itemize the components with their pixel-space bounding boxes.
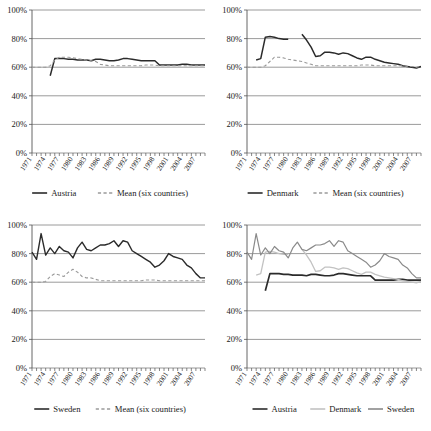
chart-svg: 0%20%40%60%80%100%1971197419771980198319…	[0, 215, 215, 431]
x-tick-label: 1995	[127, 370, 143, 388]
x-tick-label: 1974	[32, 155, 48, 173]
x-tick-label: 1989	[315, 155, 331, 173]
x-tick-label: 1983	[288, 155, 304, 173]
y-tick-label: 100%	[222, 220, 242, 230]
y-tick-label: 60%	[226, 277, 242, 287]
x-tick-label: 1986	[302, 370, 318, 388]
x-tick-label: 1983	[73, 155, 89, 173]
x-tick-label: 2004	[168, 370, 184, 388]
x-axis: 1971197419771980198319861989199219951998…	[18, 153, 205, 172]
x-tick-label: 1989	[100, 155, 116, 173]
y-tick-label: 20%	[11, 119, 27, 129]
x-tick-label: 1977	[45, 370, 61, 388]
legend-label: Denmark	[267, 188, 300, 198]
x-tick-label: 1980	[59, 155, 75, 173]
series-mean-six-countries	[247, 57, 421, 67]
x-tick-label: 1989	[315, 370, 331, 388]
x-tick-label: 2007	[182, 155, 198, 173]
x-tick-label: 1977	[260, 155, 276, 173]
chart-panel-denmark: 0%20%40%60%80%100%1971197419771980198319…	[215, 0, 431, 215]
y-tick-label: 20%	[226, 119, 242, 129]
x-tick-label: 2001	[370, 370, 386, 388]
x-tick-label: 1995	[127, 155, 143, 173]
x-tick-label: 1980	[274, 370, 290, 388]
x-tick-label: 1998	[357, 155, 373, 173]
x-tick-label: 1980	[59, 370, 75, 388]
x-tick-label: 1983	[288, 370, 304, 388]
legend: AustriaDenmarkSweden	[253, 404, 415, 414]
x-tick-label: 1998	[357, 370, 373, 388]
chart-panel-sweden: 0%20%40%60%80%100%1971197419771980198319…	[0, 215, 215, 431]
x-axis: 1971197419771980198319861989199219951998…	[233, 368, 421, 387]
chart-panel-austria: 0%20%40%60%80%100%1971197419771980198319…	[0, 0, 215, 215]
y-tick-label: 100%	[222, 5, 242, 15]
y-tick-label: 60%	[11, 62, 27, 72]
series-sweden	[32, 234, 205, 278]
chart-svg: 0%20%40%60%80%100%1971197419771980198319…	[0, 0, 215, 215]
y-tick-label: 80%	[11, 249, 27, 259]
gridlines	[32, 10, 205, 153]
y-tick-label: 20%	[11, 334, 27, 344]
series-denmark	[256, 34, 421, 68]
x-tick-label: 1974	[32, 370, 48, 388]
x-tick-label: 2004	[384, 370, 400, 388]
y-tick-label: 80%	[11, 34, 27, 44]
y-tick-label: 100%	[7, 5, 27, 15]
legend-label: Mean (six countries)	[332, 188, 403, 198]
y-axis: 0%20%40%60%80%100%	[7, 5, 32, 158]
x-tick-label: 2004	[384, 155, 400, 173]
y-tick-label: 60%	[11, 277, 27, 287]
y-tick-label: 40%	[11, 306, 27, 316]
series-mean-six-countries	[32, 57, 205, 67]
y-tick-label: 40%	[226, 306, 242, 316]
x-tick-label: 1986	[86, 370, 102, 388]
y-tick-label: 20%	[226, 334, 242, 344]
y-tick-label: 40%	[11, 91, 27, 101]
series-denmark	[256, 249, 421, 283]
series-sweden	[247, 234, 421, 278]
y-tick-label: 40%	[226, 91, 242, 101]
legend-label: Austria	[272, 404, 297, 414]
chart-panel-combined: 0%20%40%60%80%100%1971197419771980198319…	[215, 215, 431, 431]
x-tick-label: 1992	[329, 370, 345, 388]
x-tick-label: 1974	[247, 370, 263, 388]
y-axis: 0%20%40%60%80%100%	[7, 220, 32, 373]
x-tick-label: 1983	[73, 370, 89, 388]
legend: DenmarkMean (six countries)	[248, 188, 404, 198]
legend-label: Sweden	[53, 404, 81, 414]
chart-figure-grid: 0%20%40%60%80%100%1971197419771980198319…	[0, 0, 431, 431]
x-tick-label: 2001	[155, 370, 171, 388]
x-tick-label: 2007	[398, 370, 414, 388]
legend-label: Austria	[51, 188, 76, 198]
chart-svg: 0%20%40%60%80%100%1971197419771980198319…	[215, 215, 431, 431]
x-tick-label: 1992	[329, 155, 345, 173]
legend-label: Sweden	[387, 404, 415, 414]
x-axis: 1971197419771980198319861989199219951998…	[233, 153, 421, 172]
chart-svg: 0%20%40%60%80%100%1971197419771980198319…	[215, 0, 431, 215]
series-mean-six-countries	[32, 269, 205, 282]
x-tick-label: 2007	[398, 155, 414, 173]
x-tick-label: 2001	[370, 155, 386, 173]
x-tick-label: 1995	[343, 155, 359, 173]
x-tick-label: 2007	[182, 370, 198, 388]
legend-label: Mean (six countries)	[115, 404, 186, 414]
x-tick-label: 1992	[114, 155, 130, 173]
x-tick-label: 1974	[247, 155, 263, 173]
x-tick-label: 1977	[45, 155, 61, 173]
x-tick-label: 1989	[100, 370, 116, 388]
x-tick-label: 1977	[260, 370, 276, 388]
y-tick-label: 80%	[226, 249, 242, 259]
x-tick-label: 1998	[141, 155, 157, 173]
legend: SwedenMean (six countries)	[34, 404, 186, 414]
legend-label: Mean (six countries)	[117, 188, 188, 198]
x-tick-label: 1986	[302, 155, 318, 173]
y-axis: 0%20%40%60%80%100%	[222, 5, 247, 158]
x-tick-label: 1998	[141, 370, 157, 388]
x-axis: 1971197419771980198319861989199219951998…	[18, 368, 205, 387]
x-tick-label: 1995	[343, 370, 359, 388]
x-tick-label: 2004	[168, 155, 184, 173]
y-axis: 0%20%40%60%80%100%	[222, 220, 247, 373]
x-tick-label: 2001	[155, 155, 171, 173]
y-tick-label: 100%	[7, 220, 27, 230]
y-tick-label: 60%	[226, 62, 242, 72]
